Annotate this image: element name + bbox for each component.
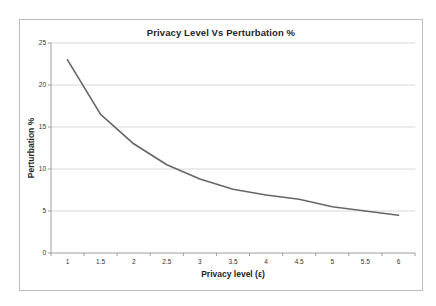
x-tick-label: 3 [198, 258, 202, 265]
y-tick-label: 10 [39, 165, 47, 172]
y-tick-label: 25 [39, 39, 47, 46]
y-tick-label: 20 [39, 81, 47, 88]
chart-frame: Privacy Level Vs Perturbation % Perturba… [19, 19, 423, 291]
x-tick-label: 4 [264, 258, 268, 265]
x-tick-label: 3.5 [228, 258, 237, 265]
y-tick-label: 15 [39, 123, 47, 130]
x-tick-label: 2.5 [162, 258, 171, 265]
x-tick-label: 5 [330, 258, 334, 265]
x-tick-label: 1 [66, 258, 70, 265]
x-tick-label: 6 [397, 258, 401, 265]
x-tick-label: 2 [132, 258, 136, 265]
x-tick-label: 4.5 [295, 258, 304, 265]
series-line [68, 60, 399, 215]
x-tick-label: 1.5 [96, 258, 105, 265]
y-tick-label: 5 [42, 207, 46, 214]
chart-figure: Privacy Level Vs Perturbation % Perturba… [0, 0, 436, 306]
plot-area: 051015202511.522.533.544.555.56 [20, 20, 422, 290]
y-tick-label: 0 [42, 249, 46, 256]
x-tick-label: 5.5 [361, 258, 370, 265]
